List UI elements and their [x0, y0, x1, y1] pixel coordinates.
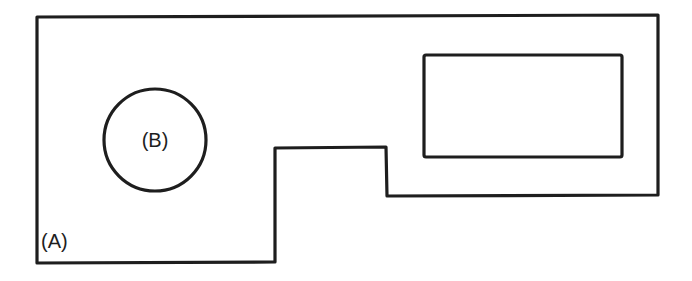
label-a: (A)	[41, 230, 68, 252]
outer-shape-a	[37, 15, 658, 263]
label-b: (B)	[142, 129, 169, 151]
diagram-canvas: (A) (B)	[0, 0, 692, 281]
inner-rectangle	[424, 55, 622, 157]
